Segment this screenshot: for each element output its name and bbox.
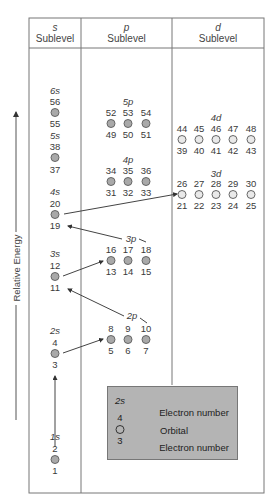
electron-number: 17 xyxy=(123,245,134,255)
orbital xyxy=(124,256,133,265)
orbital xyxy=(124,119,133,128)
electron-number: 42 xyxy=(228,146,239,156)
orbital xyxy=(107,177,116,186)
electron-number: 7 xyxy=(143,346,148,356)
electron-number: 44 xyxy=(177,124,188,134)
orbital xyxy=(195,135,204,144)
electron-number: 36 xyxy=(141,166,152,176)
sublevel-label: 2s xyxy=(50,326,60,336)
sublevel-label: 2p xyxy=(127,311,138,321)
electron-number: 43 xyxy=(246,146,257,156)
header-p-sublevel: p Sublevel xyxy=(81,22,172,44)
orbital xyxy=(142,119,151,128)
electron-number: 13 xyxy=(106,267,117,277)
legend-title: 2s xyxy=(115,396,125,406)
orbital xyxy=(229,190,238,199)
orbital xyxy=(51,349,60,358)
header-symbol: s xyxy=(29,22,81,33)
sublevel-label: 5p xyxy=(123,97,134,107)
header-symbol: d xyxy=(172,22,264,33)
electron-number: 55 xyxy=(50,119,61,129)
orbital xyxy=(212,135,221,144)
sublevel-label: 5s xyxy=(50,131,60,141)
sublevel-label: 6s xyxy=(50,86,60,96)
electron-number: 45 xyxy=(194,124,205,134)
electron-number: 34 xyxy=(106,166,117,176)
orbital-filling-diagram: s Sublevel p Sublevel d Sublevel Relativ… xyxy=(0,0,275,501)
legend-top-label: Electron number xyxy=(159,408,229,418)
electron-number: 15 xyxy=(141,267,152,277)
header-label: Sublevel xyxy=(107,33,145,44)
orbital xyxy=(229,135,238,144)
legend-orbital xyxy=(116,425,125,434)
electron-number: 11 xyxy=(50,283,60,293)
electron-number: 1 xyxy=(52,466,57,476)
electron-number: 41 xyxy=(211,146,222,156)
electron-number: 27 xyxy=(194,179,205,189)
electron-number: 25 xyxy=(246,201,257,211)
electron-number: 53 xyxy=(123,108,134,118)
electron-number: 30 xyxy=(246,179,257,189)
orbital xyxy=(51,210,60,219)
electron-number: 37 xyxy=(50,165,61,175)
electron-number: 18 xyxy=(141,245,152,255)
electron-number: 49 xyxy=(106,130,117,140)
orbital xyxy=(107,335,116,344)
orbital xyxy=(51,108,60,117)
legend-bottom-number: 3 xyxy=(117,436,122,446)
electron-number: 22 xyxy=(194,201,205,211)
electron-number: 40 xyxy=(194,146,205,156)
electron-number: 35 xyxy=(123,166,134,176)
sublevel-label: 3s xyxy=(50,249,60,259)
electron-number: 47 xyxy=(228,124,239,134)
electron-number: 21 xyxy=(177,201,188,211)
electron-number: 16 xyxy=(106,245,117,255)
electron-number: 54 xyxy=(141,108,152,118)
electron-number: 31 xyxy=(106,188,117,198)
electron-number: 50 xyxy=(123,130,134,140)
electron-number: 3 xyxy=(52,360,57,370)
electron-number: 5 xyxy=(108,346,113,356)
orbital xyxy=(178,135,187,144)
orbital xyxy=(195,190,204,199)
electron-number: 29 xyxy=(228,179,239,189)
orbital xyxy=(212,190,221,199)
electron-number: 6 xyxy=(125,346,130,356)
header-d-sublevel: d Sublevel xyxy=(172,22,264,44)
electron-number: 2 xyxy=(52,444,57,454)
electron-number: 46 xyxy=(211,124,222,134)
header-symbol: p xyxy=(81,22,172,33)
electron-number: 52 xyxy=(106,108,117,118)
electron-number: 23 xyxy=(211,201,222,211)
orbital xyxy=(107,119,116,128)
electron-number: 33 xyxy=(141,188,152,198)
orbital xyxy=(51,272,60,281)
orbital xyxy=(142,256,151,265)
orbital xyxy=(247,135,256,144)
electron-number: 24 xyxy=(228,201,239,211)
legend-orbital-label: Orbital xyxy=(160,426,188,436)
electron-number: 48 xyxy=(246,124,257,134)
orbital xyxy=(51,455,60,464)
orbital xyxy=(142,177,151,186)
electron-number: 19 xyxy=(50,221,61,231)
header-label: Sublevel xyxy=(199,33,237,44)
sublevel-label: 4s xyxy=(50,187,60,197)
orbital xyxy=(124,335,133,344)
orbital xyxy=(51,153,60,162)
sublevel-label: 3p xyxy=(126,234,137,244)
header-s-sublevel: s Sublevel xyxy=(29,22,81,44)
electron-number: 8 xyxy=(108,324,113,334)
electron-number: 28 xyxy=(211,179,222,189)
electron-number: 4 xyxy=(52,338,57,348)
sublevel-label: 4d xyxy=(211,113,222,123)
orbital xyxy=(142,335,151,344)
electron-number: 51 xyxy=(141,130,152,140)
electron-number: 38 xyxy=(50,142,61,152)
relative-energy-axis-label: Relative Energy xyxy=(11,232,22,303)
electron-number: 32 xyxy=(123,188,134,198)
electron-number: 56 xyxy=(50,97,61,107)
sublevel-label: 4p xyxy=(123,155,134,165)
legend-top-number: 4 xyxy=(117,413,122,423)
orbital xyxy=(178,190,187,199)
